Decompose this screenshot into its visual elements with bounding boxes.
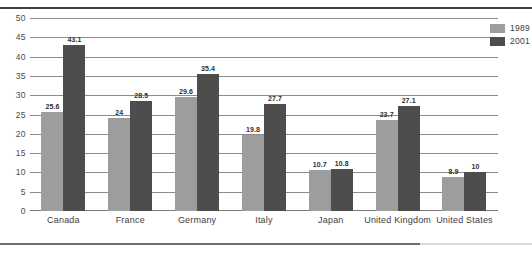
x-axis-label: Germany: [164, 215, 231, 227]
bar[interactable]: 29.6: [175, 97, 197, 211]
chart-figure: 25.643.12428.529.635.419.827.710.710.823…: [0, 0, 532, 253]
bar-value-label: 28.5: [134, 92, 148, 99]
bar[interactable]: 19.8: [242, 135, 264, 211]
bar-value-label: 8.9: [448, 168, 458, 175]
bar-value-label: 29.6: [179, 88, 193, 95]
bar-value-label: 25.6: [45, 103, 59, 110]
bottom-rule: [0, 243, 420, 245]
bar-group: 2428.5: [97, 18, 164, 211]
y-axis-tick-label: 25: [4, 111, 26, 120]
bar-value-label: 19.8: [246, 126, 260, 133]
bar[interactable]: 10.7: [309, 170, 331, 211]
bar-group: 25.643.1: [30, 18, 97, 211]
legend-swatch-icon-2001: [490, 37, 505, 46]
x-axis-label: Canada: [30, 215, 97, 227]
y-axis-tick-label: 20: [4, 130, 26, 139]
bar-slot: 10.7: [309, 18, 331, 211]
bar[interactable]: 27.1: [398, 106, 420, 211]
plot-area: 25.643.12428.529.635.419.827.710.710.823…: [30, 18, 498, 211]
y-axis-tick-label: 50: [4, 14, 26, 23]
legend-label-2001: 2001: [510, 37, 530, 46]
bar-group: 23.727.1: [364, 18, 431, 211]
bar-slot: 19.8: [242, 18, 264, 211]
x-axis-label: Italy: [231, 215, 298, 227]
bar-slot: 35.4: [197, 18, 219, 211]
bottom-rule-fade: [420, 243, 532, 245]
bar-group: 29.635.4: [164, 18, 231, 211]
bar-slot: 10: [464, 18, 486, 211]
bar-value-label: 24: [115, 109, 123, 116]
y-axis-tick-label: 0: [4, 207, 26, 216]
bar-group: 19.827.7: [231, 18, 298, 211]
bar-slot: 43.1: [63, 18, 85, 211]
bar-slot: 27.1: [398, 18, 420, 211]
bar[interactable]: 10: [464, 172, 486, 211]
x-axis-label: United Kingdom: [364, 215, 431, 227]
legend: 1989 2001: [490, 24, 530, 46]
bar-value-label: 27.7: [268, 95, 282, 102]
legend-swatch-icon-1989: [490, 24, 505, 33]
bar-value-label: 10: [471, 163, 479, 170]
bar-value-label: 10.8: [335, 160, 349, 167]
legend-item-1989[interactable]: 1989: [490, 24, 530, 33]
legend-label-1989: 1989: [510, 24, 530, 33]
bar[interactable]: 28.5: [130, 101, 152, 211]
bar[interactable]: 24: [108, 118, 130, 211]
bar-value-label: 27.1: [402, 97, 416, 104]
bar-slot: 28.5: [130, 18, 152, 211]
bar-value-label: 10.7: [313, 161, 327, 168]
legend-item-2001[interactable]: 2001: [490, 37, 530, 46]
y-axis-tick-label: 45: [4, 33, 26, 42]
x-axis-label: United States: [431, 215, 498, 227]
x-axis-labels: CanadaFranceGermanyItalyJapanUnited King…: [30, 215, 498, 227]
bar-slot: 29.6: [175, 18, 197, 211]
bar-slot: 24: [108, 18, 130, 211]
y-axis-tick-label: 5: [4, 188, 26, 197]
bar[interactable]: 8.9: [442, 177, 464, 211]
bar-value-label: 23.7: [380, 111, 394, 118]
bar-value-label: 35.4: [201, 65, 215, 72]
bar[interactable]: 27.7: [264, 104, 286, 211]
bar-slot: 23.7: [376, 18, 398, 211]
y-axis-tick-label: 10: [4, 168, 26, 177]
bar-slot: 27.7: [264, 18, 286, 211]
bar-value-label: 43.1: [67, 36, 81, 43]
bar-slot: 8.9: [442, 18, 464, 211]
y-axis-tick-label: 35: [4, 72, 26, 81]
bar[interactable]: 25.6: [41, 112, 63, 211]
x-axis-label: France: [97, 215, 164, 227]
bar[interactable]: 43.1: [63, 45, 85, 211]
x-axis-label: Japan: [297, 215, 364, 227]
y-axis-tick-label: 15: [4, 149, 26, 158]
top-rule: [0, 7, 532, 9]
clipped-title-sliver: [104, 0, 254, 4]
bar[interactable]: 10.8: [331, 169, 353, 211]
bar-group: 10.710.8: [297, 18, 364, 211]
bar-group: 8.910: [431, 18, 498, 211]
y-axis-tick-label: 40: [4, 53, 26, 62]
bar[interactable]: 35.4: [197, 74, 219, 211]
bar[interactable]: 23.7: [376, 120, 398, 211]
bar-groups: 25.643.12428.529.635.419.827.710.710.823…: [30, 18, 498, 211]
bar-slot: 25.6: [41, 18, 63, 211]
bar-slot: 10.8: [331, 18, 353, 211]
y-axis-tick-label: 30: [4, 91, 26, 100]
